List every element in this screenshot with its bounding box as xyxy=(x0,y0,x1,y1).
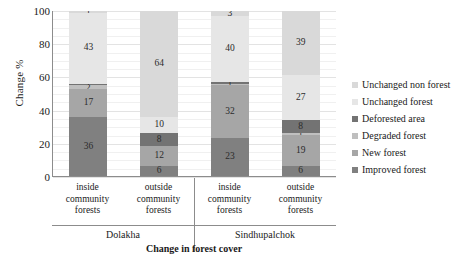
bar-segment[interactable]: 12 xyxy=(140,146,178,166)
legend-item-label: New forest xyxy=(362,148,406,158)
bar-segment-value: 6 xyxy=(298,166,303,176)
bar-segment-value: 1 xyxy=(86,84,90,86)
bar-segment-value: 27 xyxy=(296,93,306,103)
legend-swatch-icon xyxy=(352,99,358,105)
bar-segment-value: 40 xyxy=(225,44,235,54)
bar-segment-value: 17 xyxy=(84,98,94,108)
legend-item-label: Degraded forest xyxy=(362,131,426,141)
legend-swatch-icon xyxy=(352,82,358,88)
legend-swatch-icon xyxy=(352,150,358,156)
stacked-bar[interactable]: 612081064 xyxy=(140,11,178,176)
bar-segment-value: 8 xyxy=(298,122,303,132)
bar-segment-value: 39 xyxy=(296,38,306,48)
y-axis-tick-label: 60 xyxy=(16,72,50,83)
bar-segment-value: 1 xyxy=(228,84,232,86)
legend-item-label: Unchanged non forest xyxy=(362,80,450,90)
x-axis-category-label: outsidecommunityforests xyxy=(123,178,194,225)
bar-segment-value: 8 xyxy=(157,135,162,145)
legend-item-label: Unchanged forest xyxy=(362,97,433,107)
bar-segment[interactable]: 6 xyxy=(140,166,178,176)
bar-segment-value: 19 xyxy=(296,146,306,156)
bar-segment-value: 1 xyxy=(299,133,303,135)
bar-segment-value: 1 xyxy=(86,11,90,13)
bar-segment[interactable]: 1 xyxy=(211,82,249,84)
x-axis-category-label: insidecommunityforests xyxy=(52,178,123,225)
stacked-bar[interactable]: 233211403 xyxy=(211,11,249,176)
bar-slot: 619182739 xyxy=(265,11,336,176)
bar-segment[interactable]: 19 xyxy=(282,135,320,166)
x-axis-group-label: Sindhupalchok xyxy=(194,227,336,244)
legend-item-label: Improved forest xyxy=(362,165,426,175)
legend-item[interactable]: New forest xyxy=(352,144,476,161)
y-axis-tick-label: 20 xyxy=(16,138,50,149)
bar-segment[interactable]: 10 xyxy=(140,117,178,134)
bar-segment[interactable]: 1 xyxy=(69,84,107,86)
bar-segment-value: 10 xyxy=(154,120,164,130)
legend-item-label: Deforested area xyxy=(362,114,425,124)
stacked-bar[interactable]: 361721431 xyxy=(69,11,107,176)
legend-item[interactable]: Deforested area xyxy=(352,110,476,127)
chart-legend: Unchanged non forestUnchanged forestDefo… xyxy=(352,76,476,178)
bar-segment-value: 23 xyxy=(225,152,235,162)
bar-segment[interactable]: 1 xyxy=(211,84,249,86)
x-axis-category-label: insidecommunityforests xyxy=(194,178,265,225)
bar-segment-value: 6 xyxy=(157,166,162,176)
bar-segment[interactable]: 6 xyxy=(282,166,320,176)
bar-segment[interactable]: 23 xyxy=(211,138,249,176)
bar-series-container: 361721431612081064233211403619182739 xyxy=(53,11,336,176)
bar-segment[interactable]: 17 xyxy=(69,89,107,117)
legend-item[interactable]: Improved forest xyxy=(352,161,476,178)
stacked-bar[interactable]: 619182739 xyxy=(282,11,320,176)
bar-segment[interactable]: 3 xyxy=(211,11,249,16)
bar-segment[interactable]: 1 xyxy=(69,11,107,13)
bar-segment[interactable]: 1 xyxy=(282,133,320,135)
bar-segment[interactable]: 8 xyxy=(140,133,178,146)
bar-segment[interactable]: 2 xyxy=(69,85,107,88)
x-axis-group-labels: DolakhaSindhupalchok xyxy=(52,227,336,244)
bar-segment-value: 12 xyxy=(154,151,164,161)
y-axis-tick-label: 0 xyxy=(16,172,50,183)
legend-swatch-icon xyxy=(352,167,358,173)
bar-segment[interactable]: 64 xyxy=(140,11,178,117)
bar-segment-value: 64 xyxy=(154,59,164,69)
y-axis-tick-label: 80 xyxy=(16,39,50,50)
chart-figure: Change % 100806040200 361721431612081064… xyxy=(0,0,476,262)
plot-area: 361721431612081064233211403619182739 xyxy=(52,11,336,177)
y-axis-tick-label: 100 xyxy=(16,6,50,17)
y-axis-ticks: 100806040200 xyxy=(12,0,50,262)
bar-slot: 233211403 xyxy=(195,11,266,176)
bar-segment-value: 3 xyxy=(228,11,233,16)
x-axis-group-label: Dolakha xyxy=(52,227,194,244)
bar-segment[interactable]: 43 xyxy=(69,13,107,84)
bar-segment[interactable]: 40 xyxy=(211,16,249,82)
bar-segment[interactable]: 8 xyxy=(282,120,320,133)
legend-swatch-icon xyxy=(352,116,358,122)
bar-segment[interactable]: 36 xyxy=(69,117,107,176)
bar-segment-value: 1 xyxy=(228,82,232,84)
bar-segment[interactable]: 32 xyxy=(211,85,249,138)
bar-segment-value: 43 xyxy=(84,43,94,53)
legend-swatch-icon xyxy=(352,133,358,139)
bar-segment[interactable]: 39 xyxy=(282,11,320,75)
x-axis-title: Change in forest cover xyxy=(52,243,336,254)
bar-segment-value: 2 xyxy=(86,85,90,88)
x-axis-category-label: outsidecommunityforests xyxy=(265,178,336,225)
legend-item[interactable]: Unchanged non forest xyxy=(352,76,476,93)
legend-item[interactable]: Degraded forest xyxy=(352,127,476,144)
bar-segment-value: 36 xyxy=(84,142,94,152)
legend-item[interactable]: Unchanged forest xyxy=(352,93,476,110)
y-axis-tick-label: 40 xyxy=(16,105,50,116)
bar-segment-value: 32 xyxy=(225,107,235,117)
bar-slot: 361721431 xyxy=(53,11,124,176)
bar-segment[interactable]: 27 xyxy=(282,75,320,120)
bar-slot: 612081064 xyxy=(124,11,195,176)
